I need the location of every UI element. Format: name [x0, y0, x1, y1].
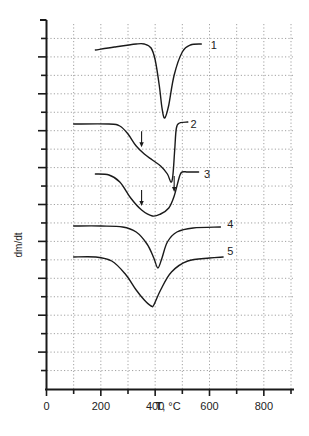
curve-3: [95, 172, 198, 216]
curve-label: 4: [227, 218, 233, 230]
curves: [74, 44, 223, 307]
curve-label: 3: [204, 168, 210, 180]
y-ticks: [38, 38, 47, 370]
curve-1: [95, 44, 201, 118]
curve-5: [74, 257, 223, 307]
x-axis-label: T, °C: [155, 400, 180, 412]
x-tick-label: 600: [200, 400, 218, 412]
x-tick-label: 200: [92, 400, 110, 412]
curve-labels: 12345: [190, 39, 233, 257]
curve-2: [74, 122, 188, 182]
x-tick-label: 800: [255, 400, 273, 412]
curve-label: 1: [211, 39, 217, 51]
x-tick-label: 0: [43, 400, 49, 412]
curve-label: 5: [227, 245, 233, 257]
arrowhead-icon: [139, 201, 143, 206]
arrowhead-icon: [139, 142, 143, 147]
x-axis-label-unit: , °C: [162, 400, 181, 412]
dtg-chart: 0200400600800 12345 T, °C dm/dt: [0, 0, 309, 436]
y-axis-label: dm/dt: [13, 232, 24, 257]
curve-4: [74, 226, 221, 268]
curve-label: 2: [190, 118, 196, 130]
